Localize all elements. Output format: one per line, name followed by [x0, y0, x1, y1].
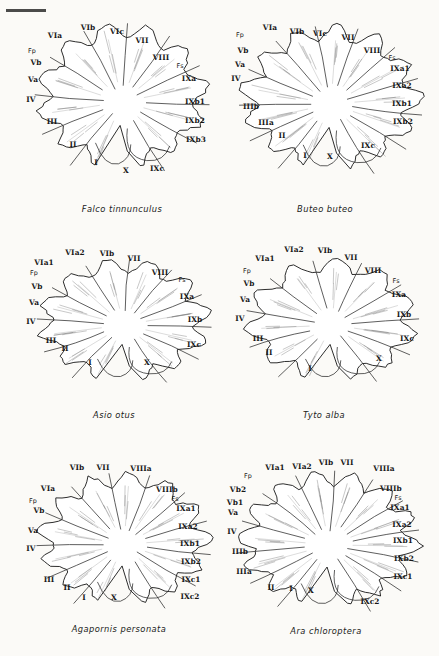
- fissure-label-fs: Fs: [388, 55, 395, 61]
- lobule-label-vii: VII: [128, 255, 141, 262]
- lobule-label-ixc: IXc: [361, 142, 375, 149]
- lobule-label-ixc2: IXc2: [180, 593, 199, 600]
- anatomy-plate: VIbVIcVIaVIIFpVIIIFsVbVaIXaIVIXb1IXb2III…: [0, 0, 439, 656]
- lobule-label-ixc: IXc: [400, 335, 414, 342]
- lobule-label-viii: VIII: [152, 269, 169, 276]
- lobule-label-iv: IV: [26, 96, 35, 103]
- lobule-label-via: VIa: [48, 32, 62, 39]
- lobule-label-ixb1: IXb1: [392, 100, 412, 107]
- lobule-label-iv: IV: [231, 75, 240, 82]
- lobule-label-vic: VIc: [313, 30, 327, 37]
- lobule-label-i: I: [94, 159, 98, 166]
- panel-tyto-alba: VIa2VIbVIa1VIIFpVIIIFsVbIXaVaIXbIVIXcIII…: [224, 232, 439, 432]
- lobule-label-iii: III: [253, 335, 264, 342]
- lobule-label-ixb2: IXb2: [185, 117, 205, 124]
- cerebellum-section-asio-otus: [24, 250, 224, 400]
- lobule-label-ixa: IXa: [180, 293, 194, 300]
- lobule-label-ixa1: IXa1: [390, 65, 410, 72]
- fissure-label-fs: Fs: [171, 496, 178, 502]
- lobule-label-x: X: [376, 355, 382, 362]
- lobule-label-iiib: IIIb: [232, 548, 248, 555]
- lobule-label-iiib: IIIb: [243, 103, 259, 110]
- fissure-label-fp: Fp: [244, 473, 252, 479]
- lobule-label-ixc: IXc: [150, 165, 164, 172]
- lobule-label-viiia: VIIIa: [373, 465, 394, 472]
- lobule-label-ixb2: IXb2: [393, 118, 413, 125]
- lobule-label-vib: VIb: [319, 459, 334, 466]
- lobule-label-via1: VIa1: [255, 255, 275, 262]
- lobule-label-iiia: IIIa: [258, 119, 274, 126]
- cerebellum-section-tyto-alba: [232, 250, 432, 400]
- lobule-label-ixa: IXa: [392, 291, 406, 298]
- lobule-label-via2: VIa2: [284, 246, 304, 253]
- lobule-label-ixb: IXb: [188, 316, 203, 323]
- fissure-label-fp: Fp: [29, 498, 37, 504]
- lobule-label-iv: IV: [26, 318, 35, 325]
- lobule-label-ixc2: IXc2: [360, 598, 379, 605]
- lobule-label-vii: VII: [97, 464, 110, 471]
- lobule-label-x: X: [111, 594, 117, 601]
- lobule-label-iii: III: [47, 118, 58, 125]
- lobule-label-va: Va: [240, 296, 250, 303]
- lobule-label-ixb3: IXb3: [186, 136, 206, 143]
- lobule-label-va: Va: [28, 527, 38, 534]
- lobule-label-viiia: VIIIa: [130, 465, 151, 472]
- lobule-label-vb: Vb: [243, 280, 254, 287]
- fissure-label-fs: Fs: [392, 278, 399, 284]
- lobule-label-va: Va: [29, 299, 39, 306]
- species-caption-agapornis-personata: Agapornis personata: [72, 624, 167, 634]
- lobule-label-iiia: IIIa: [236, 568, 252, 575]
- lobule-label-vii: VII: [342, 34, 355, 41]
- panel-buteo-buteo: VIaVIbVIcFpVIIVbVIIIFsVaIXa1IVIXa2IXb1II…: [220, 8, 439, 238]
- lobule-label-ii: II: [69, 141, 76, 148]
- lobule-label-via2: VIa2: [292, 463, 312, 470]
- lobule-label-ii: II: [278, 132, 285, 139]
- lobule-label-ixa2: IXa2: [178, 523, 198, 530]
- fissure-label-fs: Fs: [176, 63, 183, 69]
- lobule-label-via: VIa: [41, 485, 55, 492]
- species-caption-buteo-buteo: Buteo buteo: [297, 204, 353, 214]
- lobule-label-ixc1: IXc1: [181, 576, 200, 583]
- lobule-label-vib: VIb: [81, 24, 96, 31]
- lobule-label-vii: VII: [136, 37, 149, 44]
- lobule-label-ixb1: IXb1: [185, 98, 205, 105]
- fissure-label-fs: Fs: [394, 495, 401, 501]
- lobule-label-vb2: Vb2: [230, 486, 246, 493]
- fissure-label-fp: Fp: [28, 48, 36, 54]
- lobule-label-viii: VIII: [364, 47, 381, 54]
- lobule-label-x: X: [144, 359, 150, 366]
- lobule-label-ii: II: [63, 584, 70, 591]
- cerebellum-outline: [239, 23, 424, 169]
- lobule-label-via2: VIa2: [65, 249, 85, 256]
- lobule-label-viii: VIII: [365, 267, 382, 274]
- lobule-label-x: X: [327, 153, 333, 160]
- lobule-label-iv: IV: [227, 528, 236, 535]
- lobule-label-ixa1: IXa1: [390, 504, 410, 511]
- lobule-label-vib: VIb: [70, 464, 85, 471]
- species-caption-falco-tinnunculus: Falco tinnunculus: [82, 204, 162, 214]
- lobule-label-ixb1: IXb1: [180, 540, 200, 547]
- lobule-label-ixc1: IXc1: [393, 573, 412, 580]
- lobule-label-vib: VIb: [290, 28, 305, 35]
- lobule-label-ixa1: IXa1: [176, 505, 196, 512]
- lobule-label-iv: IV: [235, 315, 244, 322]
- lobule-label-ixb: IXb: [397, 311, 412, 318]
- lobule-label-ii: II: [61, 345, 68, 352]
- fissure-label-fp: Fp: [236, 32, 244, 38]
- lobule-label-vic: VIc: [110, 28, 124, 35]
- lobule-label-va: Va: [28, 76, 38, 83]
- cerebellum-outline: [36, 24, 210, 166]
- lobule-label-vb: Vb: [33, 507, 44, 514]
- lobule-label-ixb1: IXb1: [393, 537, 413, 544]
- lobule-label-vii: VII: [341, 459, 354, 466]
- lobule-label-iii: III: [44, 576, 55, 583]
- lobule-label-viiib: VIIIb: [156, 486, 178, 493]
- panel-ara-chloroptera: VIa1VIa2VIbVIIVIIIaFpVb2VIIIbFsVb1IXa1Va…: [218, 448, 439, 656]
- fissure-label-fs: Fs: [178, 277, 185, 283]
- lobule-label-va: Va: [228, 509, 238, 516]
- panel-falco-tinnunculus: VIbVIcVIaVIIFpVIIIFsVbVaIXaIVIXb1IXb2III…: [14, 8, 254, 238]
- lobule-label-va: Va: [235, 61, 245, 68]
- lobule-label-ii: II: [265, 349, 272, 356]
- lobule-label-ixb2: IXb2: [181, 558, 201, 565]
- lobule-label-iv: IV: [26, 545, 35, 552]
